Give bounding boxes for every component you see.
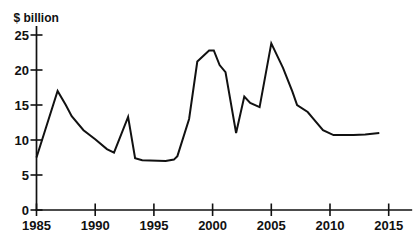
y-axis-unit-label: $ billion	[14, 11, 59, 25]
y-tick-label: 20	[15, 63, 29, 78]
y-tick-label: 0	[22, 203, 29, 218]
y-tick-label: 25	[15, 28, 29, 43]
y-tick-label: 15	[15, 98, 29, 113]
x-tick-label: 2015	[374, 218, 403, 233]
x-tick-label: 2005	[257, 218, 286, 233]
y-tick-label: 10	[15, 133, 29, 148]
x-tick-label: 1985	[22, 218, 51, 233]
axes	[36, 26, 412, 211]
y-tick-label: 5	[22, 168, 29, 183]
x-tick-label: 1990	[81, 218, 110, 233]
x-tick-label: 2000	[198, 218, 227, 233]
data-series-line	[37, 43, 380, 161]
y-axis-labels: 0510152025	[15, 28, 29, 218]
x-tick-label: 1995	[139, 218, 168, 233]
x-tick-label: 2010	[316, 218, 345, 233]
chart-figure: $ billion 0510152025 1985199019952000200…	[0, 0, 413, 244]
line-chart: $ billion 0510152025 1985199019952000200…	[0, 0, 413, 244]
x-axis-labels: 1985199019952000200520102015	[22, 218, 403, 233]
